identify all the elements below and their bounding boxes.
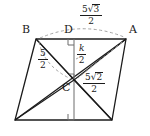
measure-CA-radicand: 2 [95, 72, 103, 82]
radical-sqrt3: √3 [88, 4, 100, 14]
measure-segment-BC: 5 2 [38, 49, 48, 70]
measure-segment-CA: 5√2 2 [83, 72, 105, 94]
radical-sqrt2: √2 [91, 72, 103, 82]
dashed-arc-top [40, 29, 124, 38]
measure-segment-height: k 2 [77, 44, 86, 65]
vertex-label-d: D [64, 24, 73, 35]
measure-DA-radicand: 3 [92, 4, 100, 14]
vertex-label-c: C [62, 82, 70, 93]
measure-height-denominator: 2 [77, 55, 86, 65]
measure-height-numerator: k [77, 44, 86, 55]
geometry-canvas [0, 0, 150, 136]
right-angle-at-base-mark [68, 114, 74, 120]
measure-segment-DA: 5√3 2 [80, 4, 102, 26]
diagonal-a-to-bottom-left [15, 39, 126, 120]
measure-CA-denominator: 2 [83, 84, 105, 94]
measure-BC-numerator: 5 [38, 49, 48, 60]
vertex-label-b: B [22, 24, 30, 35]
geometry-figure: B A D C 5√3 2 5 2 k 2 5√2 2 [0, 0, 150, 136]
measure-BC-denominator: 2 [38, 60, 48, 70]
measure-DA-denominator: 2 [80, 16, 102, 26]
vertex-label-a: A [129, 24, 137, 35]
right-angle-at-D-mark [68, 39, 74, 45]
